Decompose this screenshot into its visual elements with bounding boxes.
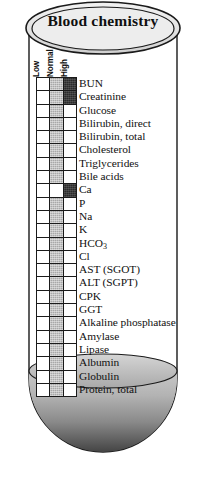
result-cell-normal[interactable] xyxy=(50,317,63,330)
result-cell-normal[interactable] xyxy=(50,171,63,184)
table-row xyxy=(37,171,77,184)
result-cell-low[interactable] xyxy=(37,198,50,211)
result-cell-high[interactable] xyxy=(64,317,77,330)
analyte-label: Bilirubin, direct xyxy=(79,117,203,130)
analyte-label: Glucose xyxy=(79,104,203,117)
result-cell-high[interactable] xyxy=(64,344,77,357)
result-cell-low[interactable] xyxy=(37,211,50,224)
result-cell-low[interactable] xyxy=(37,371,50,384)
result-cell-high[interactable] xyxy=(64,144,77,157)
result-cell-normal[interactable] xyxy=(50,277,63,290)
result-cell-low[interactable] xyxy=(37,118,50,131)
result-cell-normal[interactable] xyxy=(50,91,63,104)
analyte-label: Cl xyxy=(79,250,203,263)
result-cell-low[interactable] xyxy=(37,277,50,290)
result-cell-high[interactable] xyxy=(64,78,77,91)
result-cell-normal[interactable] xyxy=(50,291,63,304)
result-cell-normal[interactable] xyxy=(50,144,63,157)
result-cell-high[interactable] xyxy=(64,238,77,251)
result-cell-low[interactable] xyxy=(37,264,50,277)
result-cell-low[interactable] xyxy=(37,158,50,171)
result-cell-normal[interactable] xyxy=(50,198,63,211)
result-cell-normal[interactable] xyxy=(50,384,63,397)
result-cell-low[interactable] xyxy=(37,78,50,91)
result-cell-high[interactable] xyxy=(64,105,77,118)
result-cell-normal[interactable] xyxy=(50,131,63,144)
result-cell-normal[interactable] xyxy=(50,224,63,237)
result-cell-low[interactable] xyxy=(37,291,50,304)
result-grid xyxy=(36,77,77,397)
result-cell-high[interactable] xyxy=(64,331,77,344)
result-cell-high[interactable] xyxy=(64,171,77,184)
table-row xyxy=(37,277,77,290)
result-cell-high[interactable] xyxy=(64,198,77,211)
analyte-label: Creatinine xyxy=(79,90,203,103)
result-cell-low[interactable] xyxy=(37,384,50,397)
result-cell-high[interactable] xyxy=(64,184,77,197)
result-cell-normal[interactable] xyxy=(50,118,63,131)
result-cell-high[interactable] xyxy=(64,384,77,397)
result-cell-low[interactable] xyxy=(37,238,50,251)
table-row xyxy=(37,158,77,171)
result-cell-normal[interactable] xyxy=(50,304,63,317)
result-cell-high[interactable] xyxy=(64,251,77,264)
result-cell-normal[interactable] xyxy=(50,357,63,370)
result-cell-low[interactable] xyxy=(37,171,50,184)
result-cell-normal[interactable] xyxy=(50,78,63,91)
table-row xyxy=(37,238,77,251)
table-row xyxy=(37,78,77,91)
result-cell-high[interactable] xyxy=(64,357,77,370)
result-cell-normal[interactable] xyxy=(50,105,63,118)
result-cell-low[interactable] xyxy=(37,251,50,264)
result-cell-high[interactable] xyxy=(64,91,77,104)
table-row xyxy=(37,105,77,118)
result-cell-high[interactable] xyxy=(64,158,77,171)
analyte-label: Na xyxy=(79,210,203,223)
result-cell-normal[interactable] xyxy=(50,344,63,357)
column-header-low: Low xyxy=(32,61,41,77)
result-cell-high[interactable] xyxy=(64,371,77,384)
result-cell-high[interactable] xyxy=(64,211,77,224)
analyte-label-list: BUNCreatinineGlucoseBilirubin, directBil… xyxy=(79,77,203,396)
result-cell-normal[interactable] xyxy=(50,238,63,251)
result-cell-high[interactable] xyxy=(64,224,77,237)
analyte-label: Bile acids xyxy=(79,170,203,183)
result-cell-low[interactable] xyxy=(37,344,50,357)
table-row xyxy=(37,91,77,104)
table-row xyxy=(37,317,77,330)
result-cell-low[interactable] xyxy=(37,331,50,344)
table-row xyxy=(37,118,77,131)
analyte-label: Alkaline phosphatase xyxy=(79,316,203,329)
table-row xyxy=(37,304,77,317)
result-cell-normal[interactable] xyxy=(50,251,63,264)
result-cell-normal[interactable] xyxy=(50,371,63,384)
result-cell-high[interactable] xyxy=(64,131,77,144)
table-row xyxy=(37,251,77,264)
table-row xyxy=(37,291,77,304)
result-cell-normal[interactable] xyxy=(50,264,63,277)
result-cell-high[interactable] xyxy=(64,264,77,277)
result-cell-normal[interactable] xyxy=(50,184,63,197)
result-cell-low[interactable] xyxy=(37,317,50,330)
table-row xyxy=(37,344,77,357)
result-cell-low[interactable] xyxy=(37,144,50,157)
analyte-label: Cholesterol xyxy=(79,143,203,156)
result-cell-low[interactable] xyxy=(37,105,50,118)
column-header-high: High xyxy=(60,59,69,77)
result-cell-high[interactable] xyxy=(64,277,77,290)
result-cell-low[interactable] xyxy=(37,91,50,104)
result-cell-low[interactable] xyxy=(37,131,50,144)
result-cell-normal[interactable] xyxy=(50,158,63,171)
result-cell-low[interactable] xyxy=(37,184,50,197)
result-cell-high[interactable] xyxy=(64,304,77,317)
result-cell-low[interactable] xyxy=(37,224,50,237)
result-cell-low[interactable] xyxy=(37,357,50,370)
result-cell-low[interactable] xyxy=(37,304,50,317)
result-cell-normal[interactable] xyxy=(50,331,63,344)
analyte-label: ALT (SGPT) xyxy=(79,276,203,289)
table-row xyxy=(37,331,77,344)
result-cell-high[interactable] xyxy=(64,118,77,131)
result-cell-normal[interactable] xyxy=(50,211,63,224)
analyte-label: Amylase xyxy=(79,330,203,343)
result-cell-high[interactable] xyxy=(64,291,77,304)
